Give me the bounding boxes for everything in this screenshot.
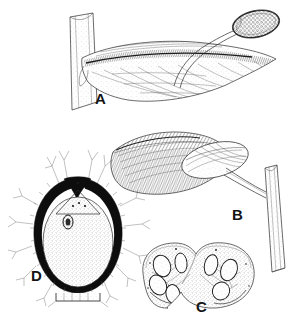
- panel-label-a: A: [95, 90, 106, 107]
- illustration-canvas: A: [0, 0, 305, 326]
- panel-label-c: C: [196, 298, 207, 315]
- panel-d-embryo: [63, 215, 73, 229]
- figure-plate: A: [0, 0, 305, 326]
- panel-label-b: B: [232, 206, 243, 223]
- panel-d-nucellus: [43, 197, 113, 287]
- panel-label-d: D: [31, 267, 42, 284]
